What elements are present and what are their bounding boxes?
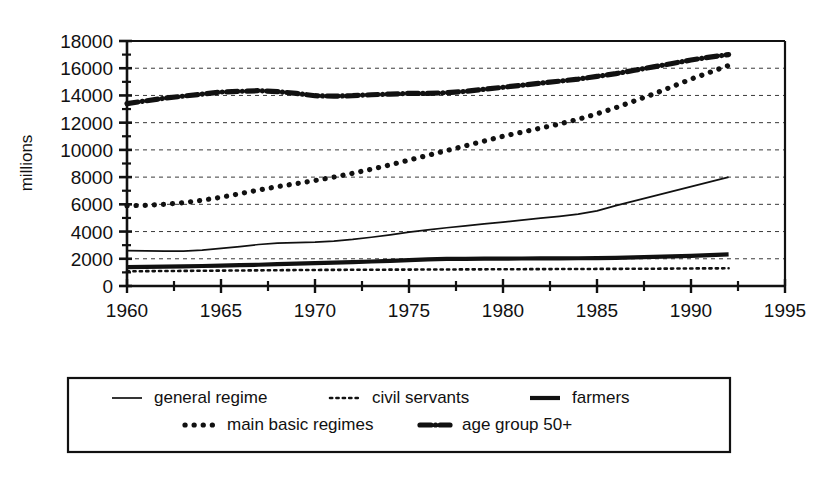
line-chart: 0200040006000800010000120001400016000180… [0,0,824,482]
y-tick-label: 18000 [60,31,113,52]
y-tick-label: 2000 [71,249,113,270]
chart-figure: 0200040006000800010000120001400016000180… [0,0,824,482]
legend-label: farmers [572,388,630,407]
x-tick-label: 1975 [388,300,430,321]
x-tick-label: 1980 [482,300,524,321]
legend-label: civil servants [372,388,469,407]
x-tick-label: 1985 [576,300,618,321]
chart-legend: general regimecivil servantsfarmersmain … [68,378,730,452]
x-tick-label: 1965 [200,300,242,321]
legend-label: general regime [154,388,267,407]
legend-label: age group 50+ [462,415,572,434]
y-axis-title: millions [17,135,36,192]
y-tick-label: 0 [102,276,113,297]
x-tick-label: 1970 [294,300,336,321]
legend-label: main basic regimes [227,415,373,434]
y-tick-label: 10000 [60,140,113,161]
y-tick-label: 16000 [60,58,113,79]
y-tick-label: 6000 [71,194,113,215]
x-tick-label: 1990 [670,300,712,321]
x-tick-label: 1960 [106,300,148,321]
y-tick-label: 12000 [60,113,113,134]
y-tick-label: 4000 [71,222,113,243]
x-tick-label: 1995 [764,300,806,321]
y-tick-label: 8000 [71,167,113,188]
y-tick-label: 14000 [60,85,113,106]
